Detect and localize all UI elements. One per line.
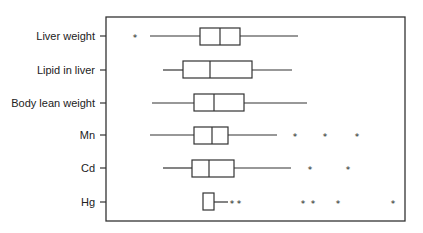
outlier-marker: *	[293, 132, 298, 142]
box-hg: * * * * * *	[203, 193, 396, 210]
outlier-marker: *	[308, 165, 313, 175]
plot-frame	[106, 17, 405, 221]
boxplot-chart: Liver weight Lipid in liver Body lean we…	[0, 0, 423, 233]
label-hg: Hg	[81, 196, 95, 208]
outlier-marker: *	[323, 132, 328, 142]
outlier-marker: *	[133, 33, 138, 43]
label-body-lean-weight: Body lean weight	[11, 97, 95, 109]
outlier-marker: *	[311, 199, 316, 209]
y-ticks	[100, 36, 106, 202]
box-cd: * *	[163, 160, 351, 177]
outlier-marker: *	[355, 132, 360, 142]
outlier-marker: *	[230, 199, 235, 209]
outlier-marker: *	[301, 199, 306, 209]
y-axis-labels: Liver weight Lipid in liver Body lean we…	[11, 30, 95, 208]
outlier-marker: *	[336, 199, 341, 209]
box-lipid-in-liver	[163, 61, 292, 78]
label-cd: Cd	[81, 162, 95, 174]
outlier-marker: *	[237, 199, 242, 209]
label-lipid-in-liver: Lipid in liver	[37, 64, 95, 76]
label-liver-weight: Liver weight	[36, 30, 95, 42]
box-body-lean-weight	[152, 94, 307, 111]
box-liver-weight: *	[133, 28, 298, 45]
outlier-marker: *	[346, 165, 351, 175]
box-mn: * * *	[150, 127, 360, 144]
label-mn: Mn	[80, 129, 95, 141]
outlier-marker: *	[391, 199, 396, 209]
